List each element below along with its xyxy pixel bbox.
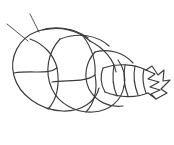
snail-shell-illustration: [0, 0, 174, 145]
drawing-canvas: Snail shell line drawing spiral snail sh…: [0, 0, 174, 145]
